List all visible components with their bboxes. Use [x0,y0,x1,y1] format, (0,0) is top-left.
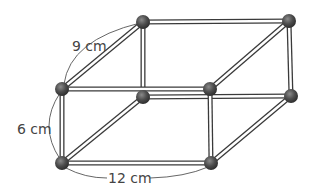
depth-label: 9 cm [72,38,107,54]
ball-front-bottom-right [204,156,218,170]
length-label: 12 cm [108,170,152,186]
ball-front-top-left [55,82,69,96]
length-dimension-arc-right [150,167,208,178]
ball-front-bottom-left [55,156,69,170]
ball-back-bottom-right [284,89,298,103]
ball-back-bottom-left [136,90,150,104]
ball-back-top-left [136,15,150,29]
cuboid-diagram: 9 cm 6 cm 12 cm [0,0,318,195]
height-label: 6 cm [17,121,52,137]
ball-back-top-right [282,14,296,28]
length-dimension-arc-left [66,168,107,178]
ball-front-top-right [203,82,217,96]
